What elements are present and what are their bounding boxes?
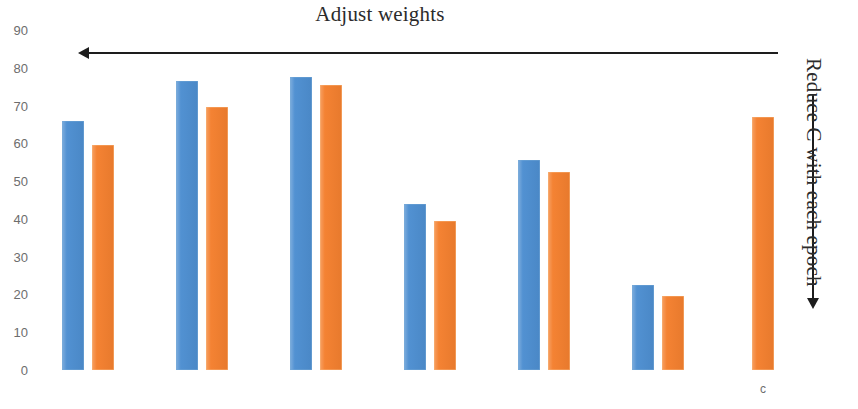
bar-orange-6 xyxy=(662,296,684,370)
bar-orange-2 xyxy=(206,107,228,370)
bar-blue-3 xyxy=(290,77,312,370)
bar-blue-5 xyxy=(518,160,540,370)
bar-orange-1 xyxy=(92,145,114,370)
bar-blue-2 xyxy=(176,81,198,370)
reduce-c-caption: Reduce C with each epoch xyxy=(801,58,826,287)
bar-blue-1 xyxy=(62,121,84,370)
bar-chart-figure: Adjust weights 9080706050403020100 c Red… xyxy=(0,0,858,409)
bar-blue-4 xyxy=(404,204,426,370)
arrow-down-icon xyxy=(807,298,819,309)
bar-orange-5 xyxy=(548,172,570,370)
bar-orange-4 xyxy=(434,221,456,370)
x-axis-category-label: c xyxy=(760,382,766,396)
bar-orange-7 xyxy=(752,117,774,370)
adjust-weights-arrow xyxy=(78,45,778,61)
bar-blue-6 xyxy=(632,285,654,370)
plot-area: c xyxy=(0,0,858,409)
bar-orange-3 xyxy=(320,85,342,370)
arrow-line xyxy=(86,52,778,54)
